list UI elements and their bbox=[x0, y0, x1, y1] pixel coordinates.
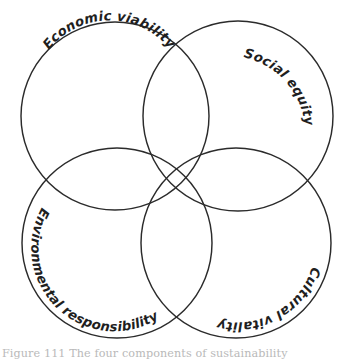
circle-cultural-vitality bbox=[141, 148, 331, 338]
circle-environmental-responsibility bbox=[22, 148, 212, 338]
label-economic-viability: Economic viability bbox=[40, 8, 180, 52]
label-cultural-vitality: Cultural vitality bbox=[214, 265, 323, 334]
figure-caption: Figure 111 The four components of sustai… bbox=[2, 347, 350, 360]
label-environmental-responsibility: Environmental responsibility bbox=[28, 206, 162, 334]
label-social-equity: Social equity bbox=[243, 46, 318, 128]
venn-diagram: Economic viability Social equity Environ… bbox=[0, 0, 353, 362]
figure-root: Economic viability Social equity Environ… bbox=[0, 0, 353, 362]
